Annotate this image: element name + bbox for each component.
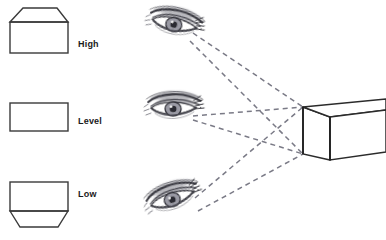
sight-line-low-to-top (195, 107, 303, 198)
box-low-front-face (10, 182, 68, 211)
box-high-front-face (10, 22, 68, 53)
diagram-canvas: High Level Low (0, 0, 386, 240)
sight-line-level-to-top (193, 107, 303, 116)
eye-high (143, 0, 208, 41)
eye-low (139, 174, 204, 217)
box-low (10, 182, 68, 227)
box-level-front-face (10, 103, 68, 131)
sight-line-high-to-top (193, 33, 303, 107)
box-level (10, 103, 68, 131)
perspective-box-right-face (330, 110, 386, 160)
diagram-scene (0, 0, 386, 240)
label-low: Low (78, 190, 97, 199)
box-high (10, 8, 68, 53)
box-high-top-face (10, 8, 68, 22)
label-high: High (78, 40, 99, 49)
perspective-box (303, 99, 386, 160)
sight-line-low-to-bottom (198, 154, 303, 211)
sight-lines-group (190, 33, 303, 211)
box-low-bottom-face (10, 211, 68, 227)
label-level: Level (78, 117, 102, 126)
